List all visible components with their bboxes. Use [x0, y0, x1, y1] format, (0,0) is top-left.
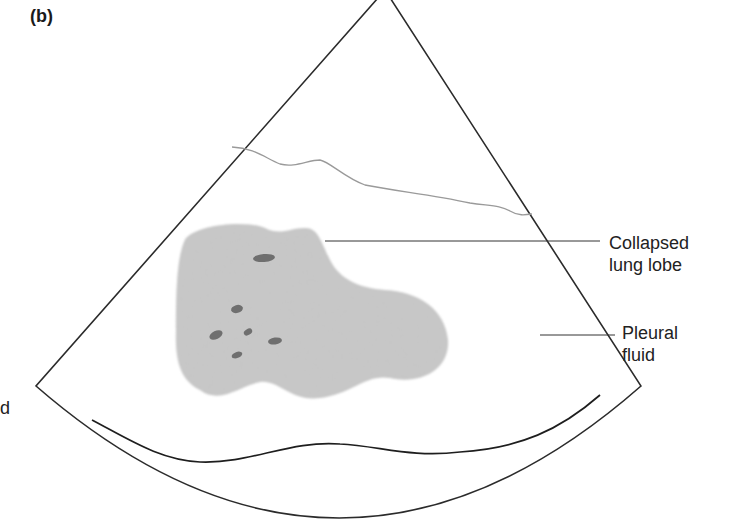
collapsed-lung-lobe: [176, 224, 448, 399]
diaphragm-line: [92, 395, 600, 462]
label-pleural-line2: fluid: [622, 344, 678, 366]
label-pleural-fluid: Pleural fluid: [622, 322, 678, 366]
pleural-line: [232, 147, 532, 215]
ultrasound-diagram: (b) Collapsed lung lobe Pleural fluid d: [0, 0, 730, 520]
label-collapsed-line2: lung lobe: [609, 254, 689, 276]
label-collapsed-lung-lobe: Collapsed lung lobe: [609, 232, 689, 276]
panel-label: (b): [30, 6, 53, 27]
label-pleural-line1: Pleural: [622, 322, 678, 344]
label-cut-off-left: d: [0, 397, 10, 419]
label-collapsed-line1: Collapsed: [609, 232, 689, 254]
ultrasound-sector-outline: [36, 0, 641, 518]
